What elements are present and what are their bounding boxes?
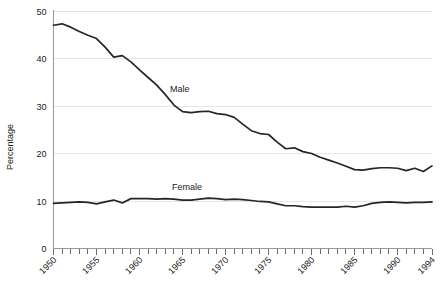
x-tick-label: 1955 xyxy=(80,255,101,276)
chart-page: 01020304050 1950195519601965197019751980… xyxy=(0,0,446,293)
x-tick-label: 1985 xyxy=(338,255,359,276)
series-label-male: Male xyxy=(170,84,190,94)
y-tick-label: 20 xyxy=(36,149,46,159)
line-chart: 01020304050 1950195519601965197019751980… xyxy=(0,0,446,293)
x-tick-label: 1950 xyxy=(37,255,58,276)
x-tick-labels: 1950195519601965197019751980198519901994 xyxy=(37,255,437,276)
x-tick-label: 1990 xyxy=(381,255,402,276)
x-tick-label: 1970 xyxy=(209,255,230,276)
data-series xyxy=(54,24,433,207)
y-tick-label: 40 xyxy=(36,54,46,64)
y-tick-labels: 01020304050 xyxy=(36,7,46,255)
y-axis-title: Percentage xyxy=(5,124,15,170)
series-label-female: Female xyxy=(172,182,202,192)
x-tick-label: 1965 xyxy=(166,255,187,276)
gridlines xyxy=(54,11,433,201)
series-line-female xyxy=(54,198,433,207)
x-tick-label: 1994 xyxy=(416,255,437,276)
y-tick-label: 0 xyxy=(41,244,46,254)
y-tick-label: 30 xyxy=(36,102,46,112)
series-line-male xyxy=(54,24,433,172)
y-tick-label: 50 xyxy=(36,7,46,17)
x-tick-label: 1980 xyxy=(295,255,316,276)
x-tick-label: 1975 xyxy=(252,255,273,276)
y-tick-label: 10 xyxy=(36,197,46,207)
series-annotations: MaleFemale xyxy=(170,84,202,192)
x-tick-marks xyxy=(54,249,433,255)
x-tick-label: 1960 xyxy=(123,255,144,276)
